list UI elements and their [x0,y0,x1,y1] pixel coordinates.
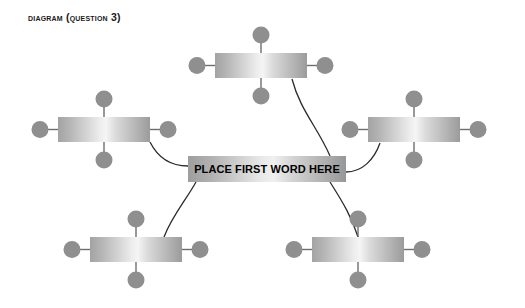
connector-center-to-bottom-left [164,182,196,237]
node-bar-bottom-left[interactable] [90,237,182,262]
node-knob-bottom-left-bottom[interactable] [128,272,145,289]
node-knob-right-bottom[interactable] [406,152,423,169]
node-bar-bottom-right[interactable] [312,237,404,262]
connector-center-to-bottom-right [330,182,358,237]
node-knob-right-right[interactable] [470,121,487,138]
connector-center-to-right [346,143,380,172]
diagram-canvas: Diagram (Question 3) PLACE FIRST WORD HE [0,0,525,308]
node-knob-bottom-right-left[interactable] [286,241,303,258]
page-title: Diagram (Question 3) [28,11,121,23]
satellite-node-left[interactable] [32,91,177,169]
node-knob-left-bottom[interactable] [96,152,113,169]
node-knob-top-top[interactable] [253,27,270,44]
node-knob-top-left[interactable] [189,57,206,74]
node-bar-left[interactable] [58,117,150,142]
nodes-layer: PLACE FIRST WORD HERE [32,27,487,289]
node-knob-bottom-left-top[interactable] [128,211,145,228]
connector-center-to-top [292,79,330,156]
node-knob-top-right[interactable] [317,57,334,74]
node-knob-bottom-right-right[interactable] [414,241,431,258]
node-knob-bottom-right-top[interactable] [350,211,367,228]
node-knob-bottom-left-right[interactable] [192,241,209,258]
node-knob-bottom-right-bottom[interactable] [350,272,367,289]
node-bar-right[interactable] [368,117,460,142]
node-bar-top[interactable] [215,53,307,78]
node-knob-left-right[interactable] [160,121,177,138]
satellite-node-top[interactable] [189,27,334,105]
node-knob-right-left[interactable] [342,121,359,138]
center-node[interactable]: PLACE FIRST WORD HERE [188,156,346,182]
node-knob-top-bottom[interactable] [253,88,270,105]
connector-center-to-left [150,142,188,166]
node-knob-left-left[interactable] [32,121,49,138]
center-node-label: PLACE FIRST WORD HERE [194,163,340,175]
node-knob-bottom-left-left[interactable] [64,241,81,258]
diagram-svg: PLACE FIRST WORD HERE [0,0,525,308]
node-knob-right-top[interactable] [406,91,423,108]
satellite-node-bottom-right[interactable] [286,211,431,289]
satellite-node-bottom-left[interactable] [64,211,209,289]
satellite-node-right[interactable] [342,91,487,169]
node-knob-left-top[interactable] [96,91,113,108]
